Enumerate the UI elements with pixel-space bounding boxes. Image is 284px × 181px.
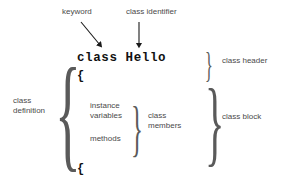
label-class-members: class members <box>148 111 181 131</box>
code-class-declaration: class Hello <box>77 51 166 65</box>
label-class-header: class header <box>222 56 267 66</box>
brace-class-definition: { <box>55 48 81 176</box>
code-open-brace: { <box>77 69 85 83</box>
brace-class-block: } <box>205 74 224 170</box>
label-class-block: class block <box>222 112 261 122</box>
label-methods: methods <box>90 134 121 144</box>
brace-class-members: } <box>131 97 143 159</box>
label-instance-variables: instance variables <box>90 101 122 121</box>
label-class-definition: class definition <box>13 96 45 116</box>
code-close-brace: { <box>77 162 85 176</box>
keyword-arrow <box>81 22 100 45</box>
class-definition-diagram: keyword class identifier { class definit… <box>0 0 284 181</box>
